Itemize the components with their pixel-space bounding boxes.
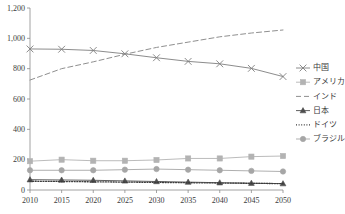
x-tick-label: 2025 xyxy=(117,196,133,205)
series-container xyxy=(27,30,287,186)
data-point-marker xyxy=(249,168,254,173)
line-chart: 02004006008001,0001,200 2010201520202025… xyxy=(0,0,345,214)
series-2 xyxy=(30,30,283,80)
x-tick-label: 2010 xyxy=(22,196,38,205)
series-line xyxy=(30,49,283,77)
y-tick-label: 400 xyxy=(13,125,25,134)
data-point-marker xyxy=(249,154,254,159)
data-point-marker xyxy=(27,168,32,173)
y-tick-label: 1,200 xyxy=(7,4,25,13)
legend-item-2[interactable]: インド xyxy=(296,92,337,101)
x-tick-label: 2020 xyxy=(85,196,101,205)
data-point-marker xyxy=(91,158,96,163)
x-tick-label: 2015 xyxy=(54,196,70,205)
data-point-marker xyxy=(27,159,32,164)
x-tick-label: 2035 xyxy=(180,196,196,205)
data-point-marker xyxy=(280,73,287,80)
data-point-marker xyxy=(59,168,64,173)
data-point-marker xyxy=(91,168,96,173)
chart-plot-area: 02004006008001,0001,200 2010201520202025… xyxy=(0,0,345,214)
legend-item-5[interactable]: ブラジル xyxy=(296,133,345,143)
legend-item-label: ドイツ xyxy=(313,120,337,129)
data-point-marker xyxy=(186,156,191,161)
data-point-marker xyxy=(300,136,305,141)
x-tick-label: 2040 xyxy=(212,196,228,205)
data-point-marker xyxy=(217,156,222,161)
legend-item-label: ブラジル xyxy=(313,133,345,143)
data-point-marker xyxy=(59,157,64,162)
data-point-marker xyxy=(122,167,127,172)
y-tick-label: 600 xyxy=(13,95,25,104)
legend-item-4[interactable]: ドイツ xyxy=(296,120,337,129)
data-point-marker xyxy=(280,153,285,158)
x-tick-label: 2045 xyxy=(243,196,259,205)
x-axis: 201020152020202520302035204020452050 xyxy=(22,190,291,205)
x-tick-label: 2050 xyxy=(275,196,291,205)
series-5 xyxy=(27,166,285,174)
legend-item-1[interactable]: アメリカ xyxy=(296,77,345,86)
legend-item-label: アメリカ xyxy=(313,77,345,86)
y-tick-label: 1,000 xyxy=(7,34,25,43)
legend-item-0[interactable]: 中国 xyxy=(296,62,329,72)
legend-item-label: 中国 xyxy=(313,62,329,72)
x-tick-label: 2030 xyxy=(149,196,165,205)
chart-legend: 中国アメリカインド日本ドイツブラジル xyxy=(296,62,345,143)
y-tick-label: 200 xyxy=(13,155,25,164)
series-0 xyxy=(27,46,287,80)
data-point-marker xyxy=(300,80,305,85)
data-point-marker xyxy=(280,169,285,174)
y-tick-label: 800 xyxy=(13,64,25,73)
data-point-marker xyxy=(122,158,127,163)
legend-item-3[interactable]: 日本 xyxy=(296,105,329,115)
data-point-marker xyxy=(154,166,159,171)
series-line xyxy=(30,30,283,80)
data-point-marker xyxy=(185,167,190,172)
y-tick-label: 0 xyxy=(21,186,25,195)
legend-item-label: インド xyxy=(313,92,337,101)
series-1 xyxy=(27,153,285,163)
data-point-marker xyxy=(217,168,222,173)
legend-item-label: 日本 xyxy=(313,105,329,115)
y-axis: 02004006008001,0001,200 xyxy=(7,4,30,195)
data-point-marker xyxy=(154,157,159,162)
